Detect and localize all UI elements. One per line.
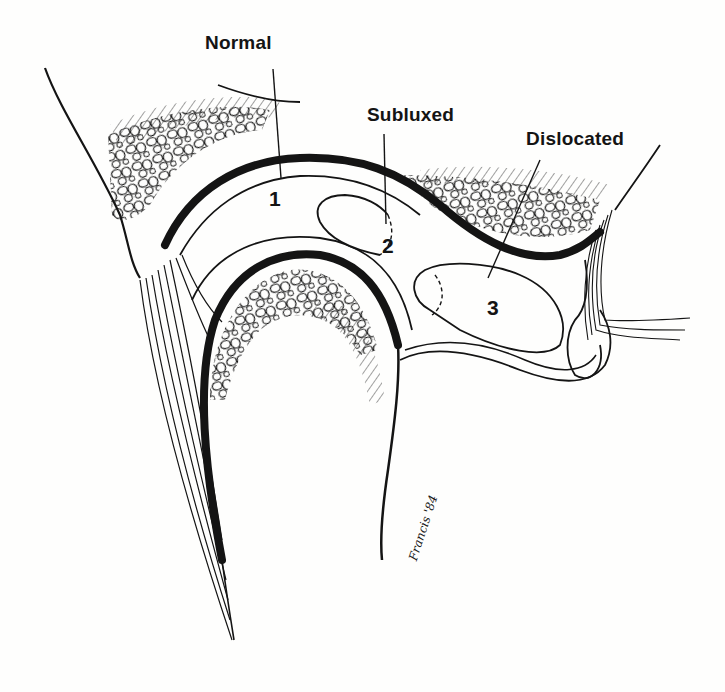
pelvis-right-edge — [615, 145, 660, 210]
femoral-neck-hatch — [310, 300, 385, 405]
position-number-1: 1 — [269, 187, 281, 211]
hip-joint-illustration — [0, 0, 725, 692]
subluxed-head-outline — [318, 195, 388, 255]
position-number-3: 3 — [487, 296, 499, 320]
label-dislocated: Dislocated — [526, 128, 624, 150]
label-normal: Normal — [205, 32, 272, 54]
ligamentum-teres — [568, 260, 601, 378]
position-number-2: 2 — [382, 234, 394, 258]
ligament-right-fibers — [585, 210, 690, 340]
label-subluxed: Subluxed — [367, 104, 454, 126]
femoral-neck-contour — [381, 345, 398, 560]
